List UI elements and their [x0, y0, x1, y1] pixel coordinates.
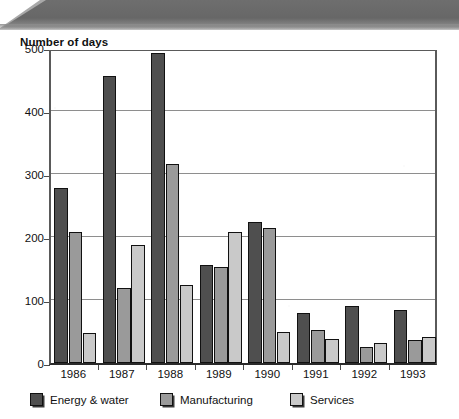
bar-1991-series-1 [311, 330, 325, 363]
bar-1986-series-0 [54, 188, 68, 363]
legend-label-0: Energy & water [50, 394, 129, 406]
bar-1986-series-1 [69, 232, 83, 363]
bar-1987-series-1 [117, 288, 131, 363]
x-tick-label-1990: 1990 [243, 368, 292, 380]
bar-1987-series-0 [103, 76, 117, 363]
bar-1989-series-2 [228, 232, 242, 363]
bar-1992-series-2 [374, 343, 388, 363]
bar-1988-series-1 [166, 164, 180, 363]
bar-1993-series-0 [394, 310, 408, 363]
bar-1991-series-2 [325, 339, 339, 363]
plot-area [49, 50, 437, 365]
x-tick-label-1986: 1986 [49, 368, 98, 380]
bar-1991-series-0 [297, 313, 311, 363]
x-tick-label-1989: 1989 [195, 368, 244, 380]
y-tick-label-100: 100 [4, 295, 44, 307]
bar-1992-series-0 [345, 306, 359, 363]
y-tick-label-200: 200 [4, 232, 44, 244]
bar-1989-series-0 [200, 265, 214, 363]
legend-label-1: Manufacturing [180, 394, 253, 406]
bar-1990-series-2 [277, 332, 291, 364]
bar-1990-series-0 [248, 222, 262, 363]
legend-swatch-energy-water [30, 393, 43, 406]
x-tick-label-1992: 1992 [340, 368, 389, 380]
legend-swatch-services [290, 393, 303, 406]
y-tick-label-300: 300 [4, 169, 44, 181]
bar-1989-series-1 [214, 267, 228, 363]
x-tick-label-1991: 1991 [292, 368, 341, 380]
bar-1993-series-2 [422, 337, 436, 363]
bar-1993-series-1 [408, 340, 422, 363]
y-tick-mark-0 [44, 365, 50, 366]
chart-container: 0100200300400500 19861987198819891990199… [0, 0, 459, 419]
bar-1986-series-2 [83, 333, 97, 363]
bar-1988-series-2 [180, 285, 194, 363]
x-tick-label-1993: 1993 [389, 368, 438, 380]
bar-1988-series-0 [151, 53, 165, 363]
bar-1987-series-2 [131, 245, 145, 363]
legend-label-2: Services [310, 394, 354, 406]
y-tick-label-500: 500 [4, 43, 44, 55]
x-tick-label-1987: 1987 [98, 368, 147, 380]
x-tick-label-1988: 1988 [146, 368, 195, 380]
y-tick-label-0: 0 [4, 358, 44, 370]
bar-1992-series-1 [360, 347, 374, 363]
y-tick-label-400: 400 [4, 106, 44, 118]
chart-legend: Energy & waterManufacturingServices [0, 392, 459, 414]
legend-swatch-manufacturing [160, 393, 173, 406]
bar-1990-series-1 [263, 228, 277, 363]
